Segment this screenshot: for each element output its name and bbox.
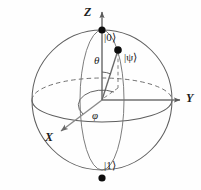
y-axis-label: Y (186, 92, 193, 104)
phi-angle-label: φ (92, 110, 98, 121)
theta-arc (102, 72, 111, 74)
state-vector-dot (114, 46, 122, 54)
equator-front-solid (32, 100, 172, 122)
ket-psi-label: |ψ⟩ (124, 52, 137, 63)
ket-zero-label: |0⟩ (104, 32, 116, 43)
ket-one-label: |1⟩ (104, 160, 116, 171)
x-axis-label: X (45, 131, 53, 143)
z-axis-label: Z (84, 6, 91, 18)
state-vector-line (102, 50, 118, 100)
theta-angle-label: θ (94, 55, 99, 66)
ket1-dot (98, 174, 105, 181)
bloch-sphere-figure: Z Y X |0⟩ |1⟩ |ψ⟩ θ φ (0, 0, 201, 190)
bloch-sphere-canvas (0, 0, 201, 190)
